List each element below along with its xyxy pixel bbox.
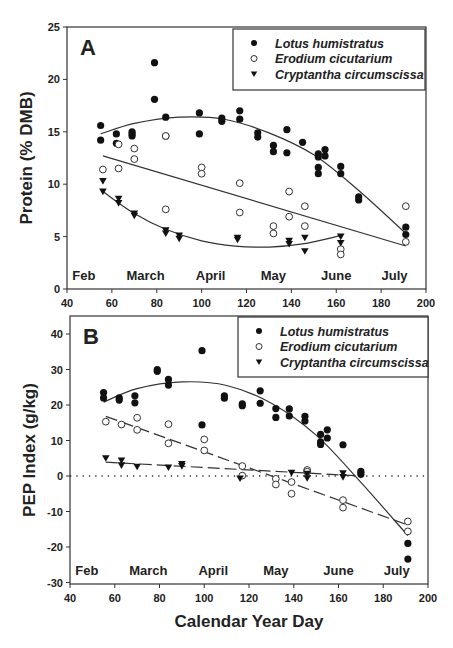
data-point-triangle-down <box>165 464 173 471</box>
legend-label: Cryptantha circumscissa <box>275 68 424 82</box>
y-tick-label: 10 <box>48 178 60 190</box>
data-point-triangle-down <box>115 200 123 207</box>
data-point-triangle-down <box>339 474 347 481</box>
data-point-filled-circle <box>151 59 158 66</box>
x-tick-label: 200 <box>417 297 435 309</box>
data-point-filled-circle <box>270 142 277 149</box>
legend-marker-filled-circle <box>256 328 262 334</box>
data-point-filled-circle <box>131 399 138 406</box>
y-tick-label: 40 <box>51 328 63 340</box>
data-point-triangle-down <box>337 234 345 241</box>
x-tick-label: 140 <box>282 297 300 309</box>
x-tick-label: 160 <box>327 297 345 309</box>
fit-line <box>104 382 408 536</box>
data-point-filled-circle <box>257 387 264 394</box>
month-label: March <box>126 268 164 283</box>
data-point-triangle-down <box>301 235 309 242</box>
data-point-open-circle <box>239 463 246 470</box>
data-point-filled-circle <box>113 130 120 137</box>
data-point-filled-circle <box>257 400 264 407</box>
data-point-open-circle <box>102 418 109 425</box>
data-point-filled-circle <box>317 431 324 438</box>
data-point-open-circle <box>340 497 347 504</box>
data-point-open-circle <box>402 238 409 245</box>
x-tick-label: 180 <box>374 592 392 604</box>
x-tick-label: 200 <box>419 592 437 604</box>
y-axis-label: PEP Index (g/kg) <box>20 383 39 517</box>
data-point-filled-circle <box>283 149 290 156</box>
data-point-open-circle <box>162 206 169 213</box>
y-tick-label: 0 <box>57 470 63 482</box>
data-point-open-circle <box>236 180 243 187</box>
y-tick-label: 20 <box>51 399 63 411</box>
fit-line <box>106 462 361 476</box>
data-point-filled-circle <box>324 426 331 433</box>
x-tick-label: 100 <box>195 592 213 604</box>
data-point-filled-circle <box>337 163 344 170</box>
data-point-filled-circle <box>128 130 135 137</box>
month-label: Feb <box>72 268 95 283</box>
data-point-filled-circle <box>317 441 324 448</box>
legend-label: Lotus humistratus <box>280 325 389 339</box>
data-point-open-circle <box>162 133 169 140</box>
x-tick-label: 120 <box>240 592 258 604</box>
data-point-filled-circle <box>239 402 246 409</box>
data-point-open-circle <box>286 213 293 220</box>
data-point-filled-circle <box>116 396 123 403</box>
month-label: May <box>263 563 289 578</box>
y-tick-label: -30 <box>47 577 63 589</box>
data-point-filled-circle <box>315 153 322 160</box>
data-point-filled-circle <box>301 417 308 424</box>
data-point-triangle-down <box>337 240 345 247</box>
data-point-open-circle <box>201 436 208 443</box>
data-point-filled-circle <box>151 96 158 103</box>
data-point-open-circle <box>134 414 141 421</box>
data-point-open-circle <box>165 440 172 447</box>
panel-letter: A <box>80 35 96 60</box>
data-point-filled-circle <box>286 405 293 412</box>
data-point-open-circle <box>301 223 308 230</box>
data-point-filled-circle <box>196 109 203 116</box>
y-tick-label: -10 <box>47 506 63 518</box>
y-tick-label: 0 <box>54 283 60 295</box>
data-point-filled-circle <box>404 540 411 547</box>
data-point-triangle-down <box>102 455 110 462</box>
x-tick-label: 60 <box>109 592 121 604</box>
data-point-filled-circle <box>404 555 411 562</box>
data-point-triangle-down <box>175 236 183 243</box>
x-tick-label: 80 <box>151 297 163 309</box>
legend-label: Erodium cicutarium <box>280 340 397 354</box>
panel-b-pep-index-chart: -30-20-100102030404060801001201401601802… <box>20 316 437 631</box>
x-tick-label: 180 <box>372 297 390 309</box>
data-point-filled-circle <box>97 137 104 144</box>
data-point-open-circle <box>404 518 411 525</box>
panel-a-protein-chart: 0510152025406080100120140160180200FebMar… <box>17 21 435 309</box>
legend-marker-filled-circle <box>251 40 257 46</box>
month-label: July <box>384 563 411 578</box>
x-tick-label: 160 <box>329 592 347 604</box>
fit-line <box>101 117 406 234</box>
legend-label: Lotus humistratus <box>275 37 384 51</box>
data-point-open-circle <box>100 166 107 173</box>
data-point-open-circle <box>301 203 308 210</box>
x-tick-label: 120 <box>237 297 255 309</box>
data-point-filled-circle <box>272 405 279 412</box>
y-tick-label: 20 <box>48 73 60 85</box>
x-tick-label: 60 <box>106 297 118 309</box>
y-tick-label: 30 <box>51 364 63 376</box>
data-point-filled-circle <box>162 114 169 121</box>
y-tick-label: 5 <box>54 231 60 243</box>
data-point-filled-circle <box>198 347 205 354</box>
data-point-filled-circle <box>254 133 261 140</box>
data-point-triangle-down <box>301 248 309 255</box>
data-point-triangle-down <box>288 470 296 477</box>
data-point-triangle-down <box>234 237 242 244</box>
data-point-filled-circle <box>299 139 306 146</box>
panel-letter: B <box>83 324 99 349</box>
data-point-open-circle <box>270 230 277 237</box>
data-point-open-circle <box>270 223 277 230</box>
data-point-triangle-down <box>131 213 139 220</box>
y-axis-label: Protein (% DMB) <box>17 91 36 224</box>
data-point-filled-circle <box>321 152 328 159</box>
data-point-open-circle <box>198 170 205 177</box>
